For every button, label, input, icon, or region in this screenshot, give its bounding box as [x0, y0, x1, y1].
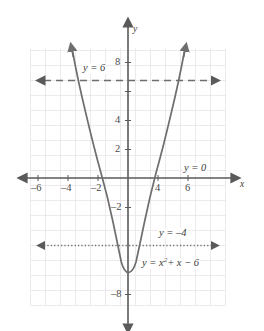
annotation-parabola-equation: y = x2+ x − 6	[141, 258, 200, 269]
x-tick-label-minus-2: –2	[91, 183, 102, 194]
coordinate-plane-svg	[0, 0, 264, 331]
x-tick-label-minus-4: –4	[61, 183, 72, 194]
equation-tail: + x − 6	[167, 257, 199, 268]
x-tick-label-4: 4	[155, 183, 160, 194]
y-tick-label-minus-8: –8	[111, 289, 122, 300]
y-tick-label-4: 4	[115, 115, 120, 126]
equation-base: y = x	[142, 257, 164, 268]
x-tick-label-6: 6	[185, 183, 190, 194]
graph-figure: –6 –4 –2 4 6 8 4 2 –2 –8 x y y = 6 y = 0…	[0, 0, 264, 331]
y-tick-label-8: 8	[115, 57, 120, 68]
annotation-y-equals-minus-4: y = –4	[158, 228, 188, 239]
annotation-y-equals-0: y = 0	[183, 163, 207, 174]
y-tick-label-minus-2: –2	[111, 202, 122, 213]
x-tick-label-minus-6: –6	[31, 183, 42, 194]
y-tick-label-2: 2	[115, 144, 120, 155]
y-axis-label: y	[133, 25, 137, 35]
x-axis-label: x	[240, 180, 244, 190]
annotation-y-equals-6: y = 6	[82, 63, 106, 74]
